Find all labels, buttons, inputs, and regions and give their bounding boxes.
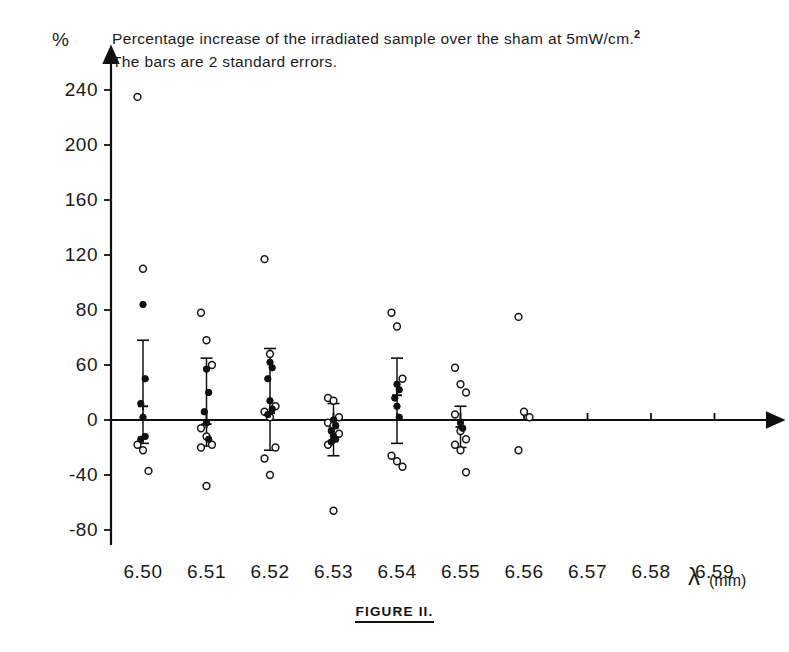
data-point-filled [265, 376, 271, 382]
x-tick-label: 6.52 [251, 561, 290, 582]
x-tick-label: 6.58 [632, 561, 671, 582]
data-point-open [330, 397, 337, 404]
data-point-filled [267, 398, 273, 404]
x-axis-symbol: λ [688, 563, 700, 590]
x-tick-label: 6.51 [187, 561, 226, 582]
data-group-6.54 [388, 309, 406, 470]
data-point-open [145, 467, 152, 474]
data-point-open [526, 414, 533, 421]
data-point-open [198, 309, 205, 316]
y-tick-label: 240 [65, 79, 98, 100]
data-point-open [394, 458, 401, 465]
y-tick-label: 120 [65, 244, 98, 265]
data-point-open [140, 447, 147, 454]
data-point-filled [269, 365, 275, 371]
data-point-open [134, 93, 141, 100]
y-tick-label: 60 [76, 354, 98, 375]
x-axis-ticks: 6.506.516.526.536.546.556.566.576.586.59 [124, 413, 734, 582]
x-tick-label: 6.55 [441, 561, 480, 582]
data-point-filled [138, 436, 144, 442]
data-point-filled [201, 409, 207, 415]
data-point-open [452, 441, 459, 448]
data-point-open [140, 265, 147, 272]
y-tick-label: -40 [69, 464, 98, 485]
figure-container: Percentage increase of the irradiated sa… [0, 0, 789, 652]
data-point-open [203, 337, 210, 344]
scatter-plot: 24020016012080600-40-80 6.506.516.526.53… [0, 0, 789, 652]
data-points-layer [134, 93, 533, 514]
data-point-open [198, 444, 205, 451]
axes [111, 62, 768, 545]
y-tick-label: 0 [87, 409, 98, 430]
data-point-open [399, 375, 406, 382]
figure-caption: FIGURE II. [0, 604, 789, 619]
data-point-open [463, 436, 470, 443]
data-point-filled [142, 376, 148, 382]
x-axis-unit: (mm) [709, 572, 746, 589]
data-point-filled [206, 436, 212, 442]
data-point-open [515, 313, 522, 320]
data-point-open [261, 256, 268, 263]
x-tick-label: 6.53 [314, 561, 353, 582]
data-point-filled [206, 389, 212, 395]
data-group-6.53 [325, 395, 343, 515]
data-point-open [394, 323, 401, 330]
data-point-open [267, 351, 274, 358]
data-point-open [457, 381, 464, 388]
data-point-filled [140, 414, 146, 420]
data-group-6.52 [261, 256, 279, 479]
data-point-open [330, 507, 337, 514]
data-point-open [272, 444, 279, 451]
data-point-open [457, 447, 464, 454]
data-point-filled [203, 366, 209, 372]
data-point-open [515, 447, 522, 454]
data-point-open [203, 483, 210, 490]
data-point-open [452, 411, 459, 418]
x-tick-label: 6.56 [505, 561, 544, 582]
y-axis-ticks: 24020016012080600-40-80 [65, 79, 112, 540]
data-point-open [261, 455, 268, 462]
data-point-filled [396, 414, 402, 420]
data-point-open [521, 408, 528, 415]
y-tick-label: 160 [65, 189, 98, 210]
data-point-open [388, 309, 395, 316]
y-tick-label: 200 [65, 134, 98, 155]
y-tick-label: -80 [69, 519, 98, 540]
y-tick-label: 80 [76, 299, 98, 320]
data-point-open [463, 389, 470, 396]
y-axis-symbol: % [52, 29, 69, 50]
data-point-filled [328, 439, 334, 445]
data-point-filled [394, 403, 400, 409]
data-group-6.50 [134, 93, 152, 474]
data-point-open [452, 364, 459, 371]
x-tick-label: 6.54 [378, 561, 417, 582]
data-point-filled [140, 301, 146, 307]
data-point-open [267, 472, 274, 479]
x-tick-label: 6.57 [568, 561, 607, 582]
data-group-6.56 [515, 313, 533, 453]
data-point-open [399, 463, 406, 470]
data-point-open [198, 425, 205, 432]
figure-caption-text: FIGURE II. [355, 604, 433, 623]
data-point-open [463, 469, 470, 476]
data-point-open [388, 452, 395, 459]
data-group-6.51 [198, 309, 216, 489]
x-tick-label: 6.50 [124, 561, 163, 582]
